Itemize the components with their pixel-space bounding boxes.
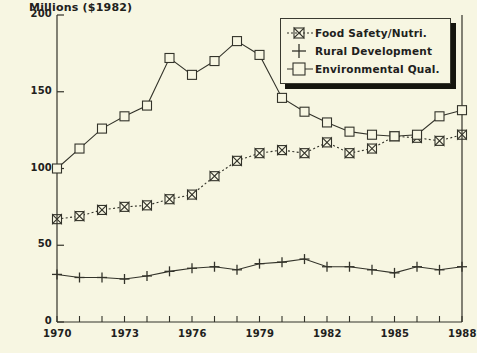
legend-item-food-safety: Food Safety/Nutri. (287, 24, 440, 42)
y-axis-tick-label: 0 (0, 315, 52, 326)
bowtie-marker-icon (287, 25, 313, 41)
y-axis-tick-label: 100 (0, 162, 52, 173)
legend-item-rural-development: Rural Development (287, 42, 440, 60)
legend-label-food-safety: Food Safety/Nutri. (315, 27, 427, 39)
x-axis-tick-label: 1982 (313, 328, 341, 339)
square-marker-icon (287, 61, 313, 77)
plus-marker-icon (287, 43, 313, 59)
y-axis-tick-label: 150 (0, 85, 52, 96)
y-axis-tick-label: 200 (0, 8, 52, 19)
x-axis-tick-label: 1988 (448, 328, 476, 339)
chart-legend: Food Safety/Nutri. Rural Development Env… (280, 18, 451, 84)
chart-series-0 (53, 130, 467, 223)
chart-series-1 (52, 254, 467, 284)
x-axis-tick-label: 1979 (246, 328, 274, 339)
legend-label-environmental-qual: Environmental Qual. (315, 63, 440, 75)
x-axis-tick-label: 1985 (381, 328, 409, 339)
x-axis-tick-label: 1970 (43, 328, 71, 339)
legend-item-environmental-qual: Environmental Qual. (287, 60, 440, 78)
x-axis-tick-label: 1976 (178, 328, 206, 339)
legend-label-rural-development: Rural Development (315, 45, 432, 57)
y-axis-tick-label: 50 (0, 238, 52, 249)
x-axis-ticks (57, 316, 462, 322)
x-axis-tick-label: 1973 (111, 328, 139, 339)
